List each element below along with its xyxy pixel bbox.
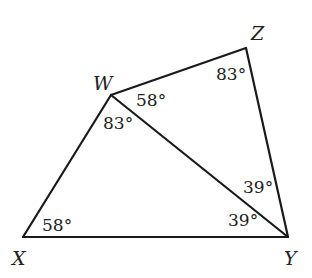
angle-label-w-zwy: 58° xyxy=(136,90,166,110)
geometry-diagram: W Z X Y 58° 83° 83° 58° 39° 39° xyxy=(0,0,312,278)
angle-label-x-wxy: 58° xyxy=(42,215,72,235)
angle-label-z-wzy: 83° xyxy=(216,64,246,84)
vertex-label-z: Z xyxy=(250,22,265,44)
vertex-label-w: W xyxy=(93,72,114,94)
angle-label-y-wyz: 39° xyxy=(243,177,273,197)
vertex-label-y: Y xyxy=(284,247,299,269)
angle-label-y-xyw: 39° xyxy=(228,210,258,230)
vertex-label-x: X xyxy=(10,247,27,269)
angle-label-w-xwy: 83° xyxy=(103,113,133,133)
